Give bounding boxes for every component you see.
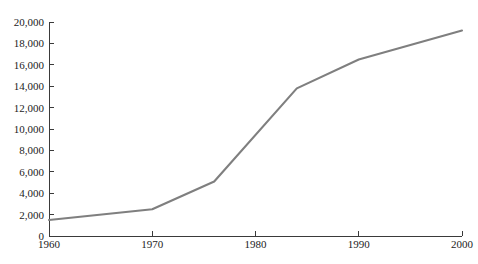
x-tick-label: 1990 [348, 238, 371, 250]
y-tick-label: 20,000 [14, 16, 45, 28]
x-tick-label: 1970 [141, 238, 164, 250]
y-tick-label: 10,000 [14, 123, 45, 135]
chart-page: 02,0004,0006,0008,00010,00012,00014,0001… [0, 0, 478, 264]
data-series-group [49, 31, 462, 220]
x-tick-label: 1980 [245, 238, 268, 250]
line-chart: 02,0004,0006,0008,00010,00012,00014,0001… [0, 0, 478, 264]
y-tick-label: 14,000 [14, 80, 45, 92]
y-tick-label: 8,000 [19, 144, 44, 156]
y-tick-label: 16,000 [14, 59, 45, 71]
y-tick-label: 2,000 [19, 209, 44, 221]
y-tick-label: 6,000 [19, 166, 44, 178]
data-line-series-1 [49, 31, 462, 220]
y-tick-label: 12,000 [14, 102, 45, 114]
y-tick-label: 18,000 [14, 37, 45, 49]
x-axis-ticks: 19601970198019902000 [38, 231, 474, 250]
x-tick-label: 2000 [451, 238, 474, 250]
x-tick-label: 1960 [38, 238, 61, 250]
y-axis-ticks: 02,0004,0006,0008,00010,00012,00014,0001… [14, 16, 54, 242]
y-tick-label: 4,000 [19, 187, 44, 199]
axes-group [49, 22, 462, 236]
